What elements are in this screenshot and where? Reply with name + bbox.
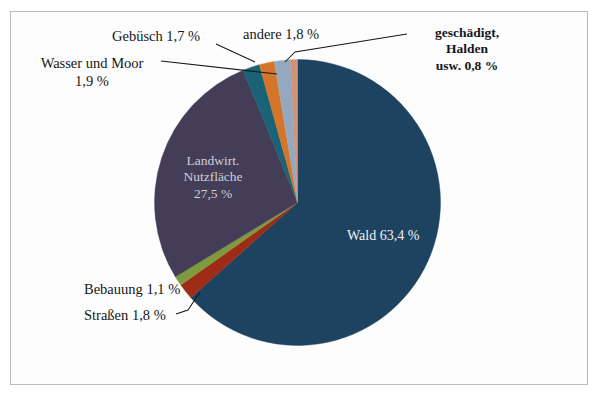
slice-label-bebauung: Bebauung 1,1 %: [84, 281, 180, 299]
slice-label-gebuesch: Gebüsch 1,7 %: [112, 28, 200, 46]
slice-label-landwirt-nutzflaeche: Landwirt. Nutzfläche 27,5 %: [161, 153, 265, 202]
slice-label-geschaedigt-line-2: Halden: [411, 41, 523, 57]
slice-label-geschaedigt-line-3: usw. 0,8 %: [411, 58, 523, 74]
slice-label-wald: Wald 63,4 %: [347, 227, 419, 244]
slice-label-strassen: Straßen 1,8 %: [84, 307, 166, 325]
slice-label-andere: andere 1,8 %: [243, 26, 319, 44]
slice-label-landwirt-line-2: Nutzfläche: [161, 169, 265, 185]
slice-label-landwirt-line-3: 27,5 %: [161, 186, 265, 202]
leader-line-gebuesch: [216, 44, 255, 62]
slice-label-wasser-line-1: Wasser und Moor: [22, 55, 162, 73]
pie-slice-group: [155, 60, 441, 346]
slice-label-landwirt-line-1: Landwirt.: [161, 153, 265, 169]
slice-label-wasser-und-moor: Wasser und Moor 1,9 %: [22, 55, 162, 90]
slice-label-geschaedigt-line-1: geschädigt,: [411, 25, 523, 41]
slice-label-geschaedigt-halden: geschädigt, Halden usw. 0,8 %: [411, 25, 523, 74]
slice-label-wasser-line-2: 1,9 %: [22, 73, 162, 91]
pie-chart-figure: Gebüsch 1,7 % andere 1,8 % geschädigt, H…: [0, 0, 600, 397]
